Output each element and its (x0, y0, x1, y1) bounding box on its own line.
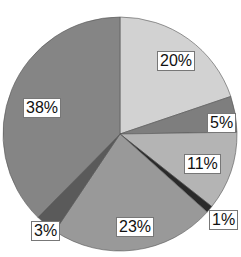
slice-label: 11% (184, 154, 221, 174)
slice-label: 23% (116, 217, 154, 237)
slice-label: 5% (207, 113, 236, 133)
slice-label: 1% (209, 210, 238, 230)
slice-label: 38% (23, 98, 61, 118)
slice-label: 20% (157, 51, 195, 71)
slice-label: 3% (31, 221, 60, 241)
